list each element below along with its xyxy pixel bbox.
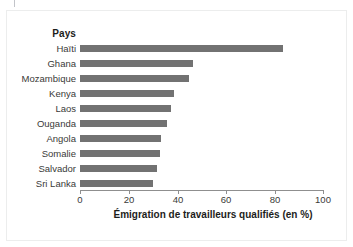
bar-sri-lanka (80, 180, 153, 187)
x-axis-line (80, 190, 324, 191)
x-tick-label-60: 60 (206, 194, 246, 206)
category-label-ghana: Ghana (0, 58, 76, 70)
category-label-salvador: Salvador (0, 163, 76, 175)
category-axis-header: Pays (0, 28, 76, 39)
x-axis-title: Émigration de travailleurs qualifiés (en… (80, 209, 346, 220)
category-label-kenya: Kenya (0, 88, 76, 100)
x-tick-label-100: 100 (303, 194, 343, 206)
bar-laos (80, 105, 171, 112)
bar-ghana (80, 60, 193, 67)
bar-somalie (80, 150, 160, 157)
category-label-somalie: Somalie (0, 148, 76, 160)
chart-screenshot: Pays Haïti Ghana Mozambique Kenya Laos O… (0, 0, 353, 247)
bar-haiti (80, 45, 283, 52)
category-label-ouganda: Ouganda (0, 118, 76, 130)
category-label-haiti: Haïti (0, 43, 76, 55)
x-tick-label-80: 80 (255, 194, 295, 206)
bar-mozambique (80, 75, 189, 82)
x-tick-label-0: 0 (60, 194, 100, 206)
bar-salvador (80, 165, 157, 172)
category-label-sri-lanka: Sri Lanka (0, 178, 76, 190)
x-tick-label-20: 20 (109, 194, 149, 206)
bar-ouganda (80, 120, 167, 127)
category-label-angola: Angola (0, 133, 76, 145)
bar-kenya (80, 90, 174, 97)
category-label-mozambique: Mozambique (0, 73, 76, 85)
category-label-laos: Laos (0, 103, 76, 115)
x-tick-label-40: 40 (158, 194, 198, 206)
bar-chart-plot: Pays Haïti Ghana Mozambique Kenya Laos O… (0, 0, 353, 247)
bar-angola (80, 135, 161, 142)
